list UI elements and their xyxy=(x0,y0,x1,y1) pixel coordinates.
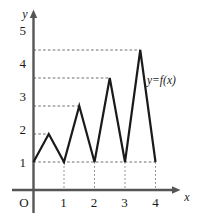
x-axis-arrow-icon xyxy=(172,186,181,194)
x-tick-labels: 1 2 3 4 xyxy=(60,195,159,210)
y-tick-label-3: 3 xyxy=(20,89,27,104)
y-axis-arrow-icon xyxy=(30,10,37,19)
y-axis-label: y xyxy=(21,7,28,21)
y-tick-label-5: 5 xyxy=(20,23,27,38)
x-tick-label-4: 4 xyxy=(152,195,159,210)
y-tick-labels: 5 4 3 2 1 xyxy=(20,23,27,170)
vertical-drop-lines xyxy=(64,162,156,190)
origin-label: O xyxy=(19,195,28,210)
function-curve xyxy=(34,50,156,162)
x-tick-label-1: 1 xyxy=(60,195,67,210)
y-tick-label-4: 4 xyxy=(20,56,27,71)
x-tick-label-2: 2 xyxy=(91,195,98,210)
function-curve-group xyxy=(34,50,156,162)
function-graph-figure: 5 4 3 2 1 1 2 3 4 O y x y=f(x) xyxy=(0,0,199,224)
x-axis-label: x xyxy=(183,190,190,204)
y-tick-label-1: 1 xyxy=(20,155,27,170)
curve-annotation-label: y=f(x) xyxy=(146,74,176,87)
x-tick-label-3: 3 xyxy=(121,195,128,210)
y-tick-label-2: 2 xyxy=(20,122,27,137)
plot-canvas: 5 4 3 2 1 1 2 3 4 O y x y=f(x) xyxy=(0,0,199,224)
